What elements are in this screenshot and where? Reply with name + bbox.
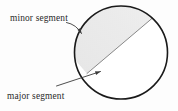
minor-segment-leader-arrow [67,23,84,35]
minor-segment-label: minor segment [10,13,68,23]
diagram-canvas: minor segment major segment [0,0,178,111]
circle-segments-figure: minor segment major segment [0,0,178,111]
major-segment-label: major segment [7,91,65,101]
